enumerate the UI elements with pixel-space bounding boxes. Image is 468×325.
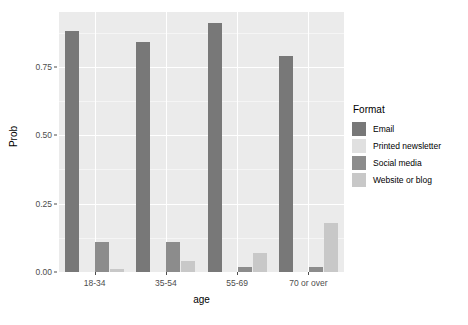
legend-label: Printed newsletter xyxy=(373,141,441,151)
y-axis-ticks: 0.000.250.500.75 xyxy=(18,0,52,325)
x-tick-label: 35-54 xyxy=(155,278,177,288)
bar xyxy=(279,56,293,272)
x-tick-mark xyxy=(95,272,96,275)
legend-swatch xyxy=(352,173,366,187)
y-tick-mark xyxy=(54,203,57,204)
bar xyxy=(136,42,150,272)
legend-title: Format xyxy=(353,104,441,115)
bar-group xyxy=(273,12,344,272)
legend: Format EmailPrinted newsletterSocial med… xyxy=(352,104,441,188)
legend-swatch xyxy=(352,139,366,153)
bar xyxy=(110,269,124,272)
x-tick-mark xyxy=(237,272,238,275)
x-tick-mark xyxy=(166,272,167,275)
bar-chart: Prob 0.000.250.500.75 age Format EmailPr… xyxy=(0,0,468,325)
bar xyxy=(253,253,267,272)
legend-items: EmailPrinted newsletterSocial mediaWebsi… xyxy=(352,120,441,188)
bar-group xyxy=(59,12,130,272)
y-tick-mark xyxy=(54,272,57,273)
bar xyxy=(181,261,195,272)
legend-label: Email xyxy=(373,124,394,134)
x-axis-title: age xyxy=(59,294,344,305)
bar xyxy=(208,23,222,272)
legend-item: Printed newsletter xyxy=(352,137,441,154)
bar xyxy=(238,267,252,272)
y-tick-label: 0.75 xyxy=(18,62,52,72)
y-tick-mark xyxy=(54,66,57,67)
y-tick-mark xyxy=(54,135,57,136)
bar-group xyxy=(202,12,273,272)
bar xyxy=(324,223,338,272)
legend-label: Website or blog xyxy=(373,175,432,185)
x-tick-label: 70 or over xyxy=(289,278,327,288)
legend-item: Website or blog xyxy=(352,171,441,188)
x-tick-label: 55-69 xyxy=(226,278,248,288)
y-tick-label: 0.50 xyxy=(18,130,52,140)
y-tick-label: 0.00 xyxy=(18,267,52,277)
x-tick-mark xyxy=(308,272,309,275)
legend-swatch xyxy=(352,156,366,170)
x-tick-label: 18-34 xyxy=(84,278,106,288)
legend-item: Social media xyxy=(352,154,441,171)
bar xyxy=(65,31,79,272)
legend-label: Social media xyxy=(373,158,422,168)
legend-swatch xyxy=(352,122,366,136)
bar-group xyxy=(130,12,201,272)
legend-item: Email xyxy=(352,120,441,137)
y-tick-label: 0.25 xyxy=(18,199,52,209)
bar xyxy=(166,242,180,272)
bar xyxy=(95,242,109,272)
bar xyxy=(309,267,323,272)
plot-panel xyxy=(59,12,344,272)
